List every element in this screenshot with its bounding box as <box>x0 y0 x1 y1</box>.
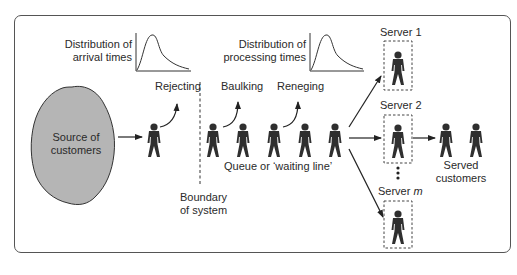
rejecting-label: Rejecting <box>155 80 201 93</box>
queue-customer-2 <box>237 123 250 157</box>
served-customer-2 <box>470 123 483 157</box>
served-customers-label: Served customers <box>432 159 490 185</box>
processing-distribution-label: Distribution of processing times <box>218 38 306 64</box>
queue-label: Queue or ‘waiting line’ <box>224 160 332 173</box>
server-2-label: Server 2 <box>380 99 422 112</box>
processing-distribution-chart <box>310 33 364 71</box>
reneging-label: Reneging <box>277 80 324 93</box>
served-customer-1 <box>440 123 453 157</box>
arrival-distribution-chart <box>136 33 191 71</box>
rejecting-arrow <box>160 104 177 127</box>
baulking-label: Baulking <box>221 80 263 93</box>
baulking-arrow <box>223 102 238 127</box>
server-m-label: Server m <box>378 185 423 198</box>
queue-customer-1 <box>207 123 220 157</box>
queue-customer-4 <box>299 123 312 157</box>
source-label: Source of customers <box>40 131 112 157</box>
queue-customer-3 <box>268 123 281 157</box>
arrival-distribution-label: Distribution of arrival times <box>56 38 132 64</box>
boundary-label: Boundary of system <box>180 191 227 217</box>
server-m-figure <box>392 210 405 244</box>
server-1-figure <box>392 51 405 85</box>
more-servers-ellipsis <box>396 166 399 179</box>
to-server-m-arrow <box>349 149 383 217</box>
queue-customer-5 <box>329 123 342 157</box>
to-server-1-arrow <box>349 76 381 127</box>
server-2-figure <box>392 124 405 158</box>
server-1-label: Server 1 <box>380 26 422 39</box>
reneging-arrow <box>283 102 298 127</box>
rejected-customer-figure <box>148 123 161 157</box>
